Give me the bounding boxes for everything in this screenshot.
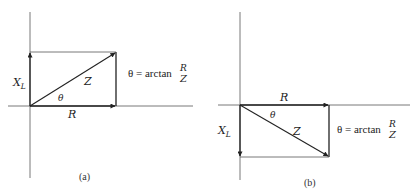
formula-denominator: Z (179, 73, 188, 84)
theta-label: θ (58, 93, 64, 103)
caption-a: (a) (79, 171, 90, 183)
z-vector (30, 53, 115, 106)
formula-b: θ = arctan R Z (337, 119, 397, 140)
caption-b: (b) (304, 177, 316, 189)
formula-numerator: R (388, 119, 396, 129)
formula-denominator: Z (388, 129, 397, 140)
r-label: R (67, 108, 76, 121)
z-label: Z (83, 75, 92, 88)
formula-lhs: θ = arctan (337, 123, 381, 135)
z-vector (240, 105, 328, 156)
formula-lhs: θ = arctan (128, 67, 172, 79)
z-label: Z (292, 125, 301, 138)
theta-label: θ (270, 110, 276, 120)
xl-label: XL (12, 76, 26, 91)
formula-numerator: R (179, 63, 187, 73)
formula-a: θ = arctan R Z (128, 63, 188, 84)
r-label: R (279, 91, 288, 104)
diagram-a: XL θ R Z θ = arctan R Z (a) (8, 12, 193, 183)
diagram-b: R θ Z XL θ = arctan R Z (b) (217, 12, 410, 189)
xl-label: XL (217, 124, 231, 139)
phasor-diagrams: XL θ R Z θ = arctan R Z (a) R θ Z XL θ =… (0, 0, 410, 191)
